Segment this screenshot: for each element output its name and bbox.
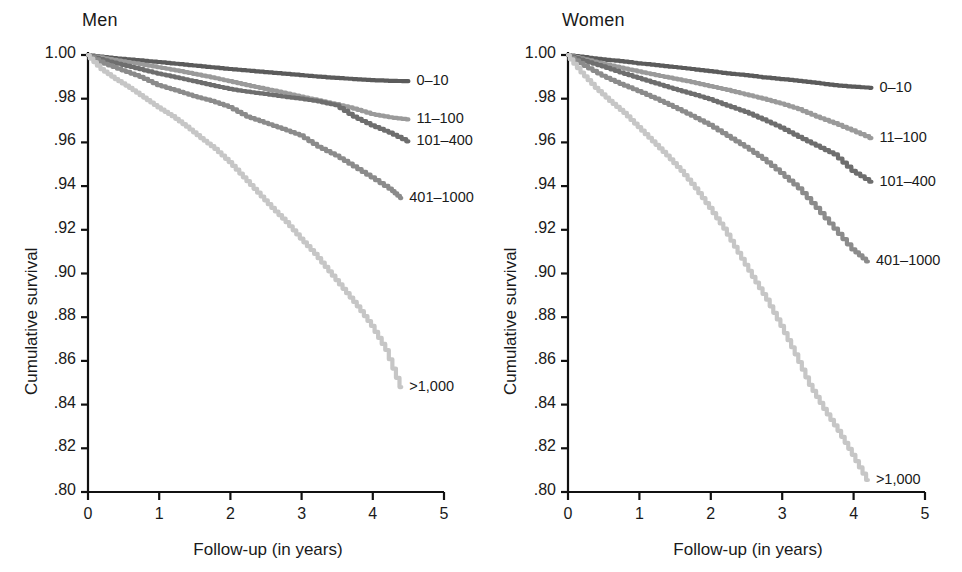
x-tick-label: 5 xyxy=(424,505,464,523)
x-tick-label: 4 xyxy=(353,505,393,523)
x-tick-label: 5 xyxy=(905,505,945,523)
curve-label: >1,000 xyxy=(876,471,921,487)
curve-label: 101–400 xyxy=(879,173,935,189)
y-tick-label: .98 xyxy=(10,88,76,106)
curve-label: 101–400 xyxy=(416,132,472,148)
y-tick-label: .92 xyxy=(490,219,556,237)
y-tick-label: .86 xyxy=(10,350,76,368)
survival-chart-figure: Men Cumulative survival Follow-up (in ye… xyxy=(0,0,962,572)
y-tick-label: 1.00 xyxy=(490,44,556,62)
panel-men: Men Cumulative survival Follow-up (in ye… xyxy=(0,0,481,572)
y-tick-label: .90 xyxy=(490,263,556,281)
survival-curve xyxy=(88,55,408,141)
curve-label: 401–1000 xyxy=(409,189,474,205)
y-tick-label: .86 xyxy=(490,350,556,368)
y-tick-label: .84 xyxy=(490,394,556,412)
y-tick-label: .84 xyxy=(10,394,76,412)
x-tick-label: 0 xyxy=(68,505,108,523)
curve-label: 0–10 xyxy=(416,72,448,88)
curve-label: 11–100 xyxy=(879,129,926,145)
y-tick-label: .92 xyxy=(10,219,76,237)
y-tick-label: .98 xyxy=(490,88,556,106)
curve-label: 401–1000 xyxy=(876,252,941,268)
x-tick-label: 1 xyxy=(619,505,659,523)
x-tick-label: 3 xyxy=(282,505,322,523)
y-tick-label: .94 xyxy=(490,175,556,193)
survival-curve xyxy=(88,55,401,387)
y-tick-label: .82 xyxy=(10,437,76,455)
y-tick-label: .90 xyxy=(10,263,76,281)
x-tick-label: 2 xyxy=(210,505,250,523)
survival-curve xyxy=(88,55,408,119)
y-tick-label: .96 xyxy=(10,131,76,149)
y-tick-label: .88 xyxy=(10,306,76,324)
y-tick-label: .82 xyxy=(490,437,556,455)
y-tick-label: .80 xyxy=(10,481,76,499)
y-tick-label: 1.00 xyxy=(10,44,76,62)
panel-women: Women Cumulative survival Follow-up (in … xyxy=(481,0,962,572)
curve-label: 0–10 xyxy=(879,79,911,95)
y-tick-label: .88 xyxy=(490,306,556,324)
curve-label: 11–100 xyxy=(416,110,463,126)
y-tick-label: .80 xyxy=(490,481,556,499)
x-tick-label: 0 xyxy=(548,505,588,523)
x-tick-label: 4 xyxy=(834,505,874,523)
curve-label: >1,000 xyxy=(409,378,454,394)
x-tick-label: 1 xyxy=(139,505,179,523)
y-tick-label: .94 xyxy=(10,175,76,193)
y-tick-label: .96 xyxy=(490,131,556,149)
x-tick-label: 3 xyxy=(762,505,802,523)
x-tick-label: 2 xyxy=(691,505,731,523)
